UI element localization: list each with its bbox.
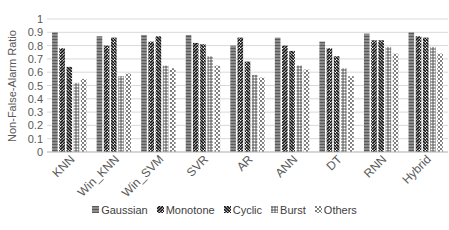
bar-gaussian	[141, 35, 147, 152]
y-tick-label: 0.7	[28, 53, 43, 65]
bar-others	[393, 54, 399, 152]
bar-cyclic	[156, 36, 162, 152]
bar-cyclic	[111, 38, 117, 152]
bar-cyclic	[423, 38, 429, 152]
y-tick-label: 0.4	[28, 93, 43, 105]
bar-monotone	[238, 38, 244, 152]
y-tick-label: 0.6	[28, 66, 43, 78]
y-tick-label: 0.3	[28, 106, 43, 118]
others-swatch-icon	[315, 206, 322, 213]
bar-others	[81, 79, 87, 152]
y-tick-label: 0.1	[28, 133, 43, 145]
bar-cyclic	[200, 44, 206, 152]
bar-cyclic	[289, 51, 295, 152]
bar-gaussian	[97, 36, 103, 152]
bar-monotone	[148, 42, 154, 152]
bars	[52, 32, 443, 152]
x-tick-label: SVR	[184, 152, 212, 180]
bar-cyclic	[334, 56, 340, 152]
bar-others	[437, 54, 443, 152]
bar-others	[170, 68, 176, 152]
bar-monotone	[59, 48, 65, 152]
y-tick-label: 0.2	[28, 119, 43, 131]
bar-monotone	[104, 46, 110, 152]
x-axis-ticks: KNNWin_KNNWin_SVMSVRARANNDTRNNHybrid	[50, 152, 434, 200]
bar-gaussian	[364, 34, 370, 152]
bar-gaussian	[52, 32, 58, 152]
legend-item-gaussian: Gaussian	[92, 204, 147, 216]
bar-monotone	[416, 36, 422, 152]
bar-others	[259, 78, 265, 152]
legend-item-cyclic: Cyclic	[224, 204, 262, 216]
y-tick-label: 0.5	[28, 80, 43, 92]
bar-others	[348, 76, 354, 152]
y-tick-label: 1	[37, 13, 43, 25]
monotone-swatch-icon	[157, 206, 164, 213]
bar-burst	[207, 56, 213, 152]
bar-monotone	[371, 40, 377, 152]
x-tick-label: AR	[234, 152, 256, 174]
x-tick-label: Win_SVM	[119, 152, 167, 200]
x-tick-label: KNN	[50, 152, 78, 180]
bar-gaussian	[409, 32, 415, 152]
legend: Gaussian Monotone Cyclic Burst Others	[0, 203, 449, 216]
y-tick-label: 0	[37, 146, 43, 158]
bar-burst	[252, 75, 258, 152]
x-tick-label: Win_KNN	[75, 152, 122, 199]
x-tick-label: Hybrid	[399, 152, 433, 186]
bar-burst	[118, 76, 124, 152]
x-tick-label: RNN	[361, 152, 389, 180]
legend-item-burst: Burst	[271, 204, 306, 216]
bar-monotone	[193, 43, 199, 152]
bar-cyclic	[378, 40, 384, 152]
bar-others	[304, 70, 310, 152]
bar-cyclic	[245, 62, 251, 152]
bar-gaussian	[319, 42, 325, 152]
bar-gaussian	[275, 38, 281, 152]
bar-gaussian	[186, 35, 192, 152]
burst-swatch-icon	[271, 206, 278, 213]
bar-burst	[296, 66, 302, 152]
bar-others	[215, 66, 221, 152]
cyclic-swatch-icon	[224, 206, 231, 213]
bar-burst	[386, 47, 392, 152]
legend-item-others: Others	[315, 204, 357, 216]
bar-burst	[341, 68, 347, 152]
bar-burst	[430, 47, 436, 152]
bar-burst	[163, 66, 169, 152]
x-tick-label: DT	[324, 152, 346, 174]
bar-burst	[74, 83, 80, 152]
y-axis-ticks: 00.10.20.30.40.50.60.70.80.91	[28, 13, 43, 158]
bar-chart: 00.10.20.30.40.50.60.70.80.91 KNNWin_KNN…	[0, 0, 449, 230]
bar-gaussian	[230, 46, 236, 152]
y-axis-label: Non-False-Alarm Ratio	[6, 30, 18, 142]
bar-monotone	[327, 48, 333, 152]
x-tick-label: ANN	[272, 152, 300, 180]
bar-monotone	[282, 46, 288, 152]
bar-cyclic	[66, 67, 72, 152]
bar-others	[125, 74, 131, 152]
legend-item-monotone: Monotone	[157, 204, 215, 216]
y-tick-label: 0.8	[28, 40, 43, 52]
gaussian-swatch-icon	[92, 206, 99, 213]
y-tick-label: 0.9	[28, 26, 43, 38]
